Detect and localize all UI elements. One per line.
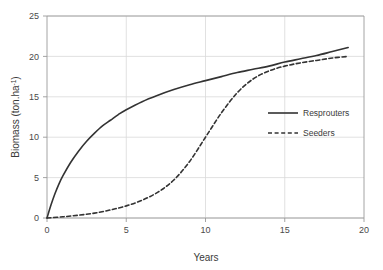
chart-figure: 05101520 0510152025 Years Biomass (ton.h…	[0, 0, 383, 270]
x-tick-label: 10	[200, 225, 210, 235]
x-axis-title: Years	[193, 252, 218, 263]
x-tick-label: 20	[359, 225, 369, 235]
y-tick-label: 0	[34, 213, 39, 223]
y-tick-label: 10	[29, 132, 39, 142]
legend-label-seeders: Seeders	[303, 128, 335, 138]
y-axis-title: Biomass (ton.ha-1)	[10, 76, 21, 157]
legend-label-resprouters: Resprouters	[303, 108, 349, 118]
x-tick-label: 0	[44, 225, 49, 235]
y-tick-label: 15	[29, 92, 39, 102]
y-tick-label: 20	[29, 52, 39, 62]
y-tick-label: 5	[34, 173, 39, 183]
y-axis-title-text: Biomass (ton.ha-1)	[10, 76, 21, 157]
x-tick-label: 5	[124, 225, 129, 235]
x-tick-label: 15	[280, 225, 290, 235]
biomass-years-line-chart: 05101520 0510152025 Years Biomass (ton.h…	[0, 0, 383, 270]
y-tick-label: 25	[29, 11, 39, 21]
